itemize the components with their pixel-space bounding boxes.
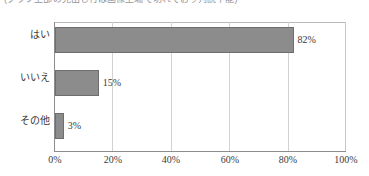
y-axis-line xyxy=(54,22,55,152)
bar-row-1: 15% xyxy=(55,70,346,96)
bar-0 xyxy=(55,27,294,53)
x-tick-label-0: 0% xyxy=(48,154,61,166)
cropped-caption-strip: (グラフ上部の見出し行は画像上端で切れており判読不能) xyxy=(0,0,369,8)
bar-value-label-1: 15% xyxy=(99,78,121,88)
x-tick-label-4: 80% xyxy=(279,154,297,166)
caption-text: (グラフ上部の見出し行は画像上端で切れており判読不能) xyxy=(4,0,238,5)
bar-value-label-0: 82% xyxy=(294,35,316,45)
x-tick-label-3: 60% xyxy=(221,154,239,166)
bar-1 xyxy=(55,70,99,96)
x-axis-line xyxy=(54,151,346,152)
y-axis-label-1: いいえ xyxy=(0,72,50,84)
bar-row-0: 82% xyxy=(55,27,346,53)
x-axis-tick-labels: 0% 20% 40% 60% 80% 100% xyxy=(0,154,369,170)
bar-2 xyxy=(55,113,64,139)
bar-row-2: 3% xyxy=(55,113,346,139)
y-axis-label-0: はい xyxy=(0,29,50,41)
bar-chart: はい いいえ その他 82% 15% 3% 0% 20% 40% 60% 80% xyxy=(0,8,369,176)
plot-top-border xyxy=(54,22,346,23)
y-axis-category-labels: はい いいえ その他 xyxy=(0,22,50,152)
plot-area: 82% 15% 3% xyxy=(54,22,346,152)
x-tick-label-5: 100% xyxy=(334,154,357,166)
x-tick-label-2: 40% xyxy=(162,154,180,166)
bar-value-label-2: 3% xyxy=(64,121,81,131)
y-axis-label-2: その他 xyxy=(0,115,50,127)
x-tick-label-1: 20% xyxy=(104,154,122,166)
